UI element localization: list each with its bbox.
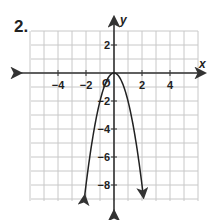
y-axis-label: y bbox=[119, 13, 128, 27]
y-tick-label: 2 bbox=[104, 39, 110, 51]
x-tick-label: −4 bbox=[52, 79, 65, 91]
x-tick-label: −2 bbox=[80, 79, 93, 91]
parabola-graph: xy−4−2Ø242−2−4−6−8 bbox=[0, 0, 210, 220]
x-axis-label: x bbox=[198, 57, 207, 71]
x-tick-label: 2 bbox=[139, 79, 145, 91]
x-tick-label: 4 bbox=[167, 79, 174, 91]
y-tick-label: −6 bbox=[97, 151, 110, 163]
y-tick-label: −8 bbox=[97, 179, 110, 191]
y-tick-label: −4 bbox=[97, 123, 110, 135]
